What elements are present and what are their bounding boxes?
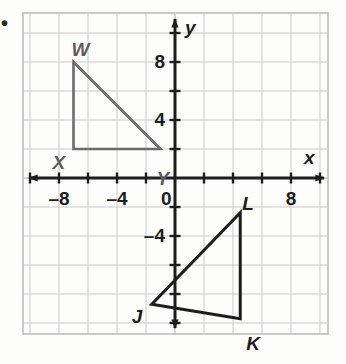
x-tick-label-0: –8	[48, 189, 69, 208]
y-tick-label-2: –4	[144, 226, 165, 245]
x-tick-label-1: –4	[106, 189, 127, 208]
y-axis-name: y	[185, 18, 196, 37]
vertex-label-K: K	[246, 334, 260, 353]
coordinate-plane-figure: • –8–40884–4xyWXYJKL	[0, 0, 346, 364]
vertex-label-J: J	[132, 307, 143, 326]
y-tick-label-1: 4	[154, 110, 165, 129]
x-axis-name: x	[304, 148, 315, 167]
x-tick-label-3: 8	[286, 189, 297, 208]
vertex-label-X: X	[53, 153, 66, 172]
y-tick-label-0: 8	[154, 52, 165, 71]
vertex-label-W: W	[72, 40, 90, 59]
vertex-label-L: L	[242, 194, 254, 213]
plot-canvas	[0, 0, 346, 364]
x-tick-label-2: 0	[161, 189, 172, 208]
vertex-label-Y: Y	[157, 169, 170, 188]
